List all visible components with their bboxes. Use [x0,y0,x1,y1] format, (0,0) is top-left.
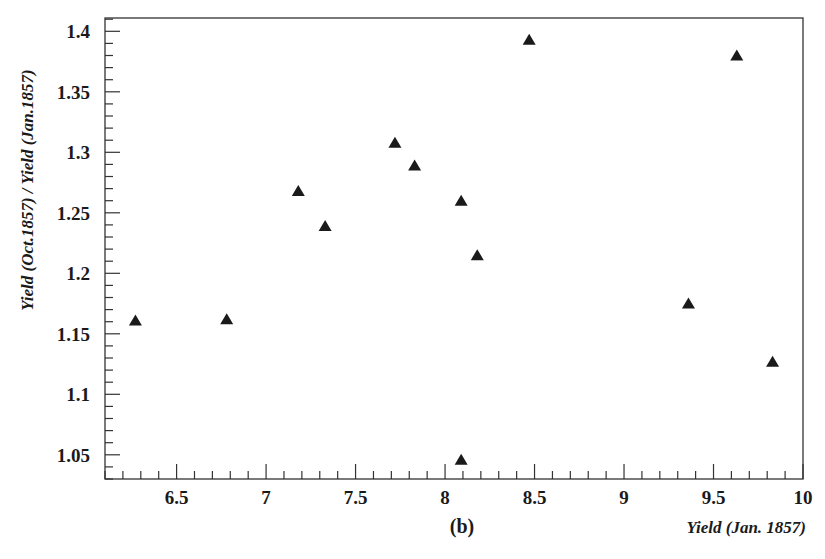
x-tick-label: 8 [440,487,450,508]
y-tick-label: 1.2 [66,263,90,284]
data-point-triangle-icon [319,220,332,231]
data-point-triangle-icon [408,160,421,171]
data-point-triangle-icon [455,454,468,465]
x-tick-label: 8.5 [523,487,547,508]
x-tick-label: 10 [794,487,813,508]
plot-frame [105,18,803,479]
data-points [129,34,779,465]
x-tick-label: 9 [619,487,629,508]
x-axis-title: Yield (Jan. 1857) [687,518,806,537]
x-tick-label: 7 [261,487,271,508]
y-tick-label: 1.4 [66,21,90,42]
data-point-triangle-icon [129,314,142,325]
data-point-triangle-icon [388,137,401,148]
data-point-triangle-icon [220,313,233,324]
data-point-triangle-icon [730,50,743,61]
x-axis-tick-labels: 6.577.588.599.510 [165,487,813,508]
y-axis-ticks [105,19,120,479]
scatter-chart: 6.577.588.599.510 1.051.11.151.21.251.31… [0,0,825,559]
y-tick-label: 1.1 [66,384,90,405]
data-point-triangle-icon [682,298,695,309]
y-tick-label: 1.15 [57,324,90,345]
y-tick-label: 1.25 [57,203,90,224]
y-axis-title: Yield (Oct.1857) / Yield (Jan.1857) [18,69,37,310]
x-tick-label: 6.5 [165,487,189,508]
x-tick-label: 7.5 [344,487,368,508]
y-axis-tick-labels: 1.051.11.151.21.251.31.351.4 [57,21,91,465]
data-point-triangle-icon [292,185,305,196]
y-tick-label: 1.3 [66,142,90,163]
panel-label: (b) [450,515,474,538]
data-point-triangle-icon [455,195,468,206]
y-tick-label: 1.35 [57,82,90,103]
data-point-triangle-icon [766,356,779,367]
data-point-triangle-icon [523,34,536,45]
x-axis-ticks [105,464,803,479]
data-point-triangle-icon [471,249,484,260]
y-tick-label: 1.05 [57,445,90,466]
x-tick-label: 9.5 [702,487,726,508]
